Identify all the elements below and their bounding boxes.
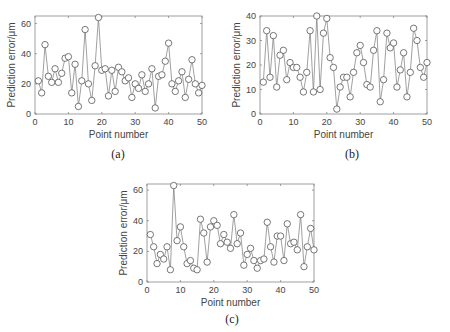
- data-point-marker: [241, 262, 247, 268]
- series-line: [150, 186, 314, 270]
- data-point-marker: [201, 230, 207, 236]
- data-point-marker: [370, 47, 376, 53]
- data-point-marker: [59, 70, 65, 76]
- x-tick-label: 20: [97, 117, 107, 127]
- x-tick-label: 20: [209, 285, 219, 295]
- data-point-marker: [192, 81, 198, 87]
- data-point-marker: [152, 105, 158, 111]
- y-tick-label: 60: [133, 185, 143, 195]
- data-point-marker: [264, 219, 270, 225]
- y-tick-label: 40: [21, 49, 31, 59]
- data-point-marker: [417, 64, 423, 70]
- data-point-marker: [189, 57, 195, 63]
- y-tick-label: 40: [133, 216, 143, 226]
- data-point-marker: [227, 245, 233, 251]
- data-point-marker: [55, 79, 61, 85]
- data-point-marker: [377, 99, 383, 105]
- y-tick-label: 60: [21, 19, 31, 29]
- chart-b: 01020304050010203040Point numberPredicti…: [225, 0, 450, 140]
- data-point-marker: [301, 263, 307, 269]
- data-point-marker: [354, 50, 360, 56]
- data-point-marker: [317, 86, 323, 92]
- x-tick-label: 0: [144, 285, 149, 295]
- data-point-marker: [397, 67, 403, 73]
- x-tick-label: 50: [309, 285, 319, 295]
- y-tick-label: 0: [251, 109, 256, 119]
- x-axis-label: Point number: [201, 297, 261, 308]
- x-tick-label: 30: [242, 285, 252, 295]
- data-point-marker: [330, 64, 336, 70]
- y-tick-label: 20: [133, 246, 143, 256]
- y-tick-label: 0: [138, 277, 143, 287]
- data-point-marker: [177, 224, 183, 230]
- data-point-marker: [214, 222, 220, 228]
- data-point-marker: [261, 256, 267, 262]
- data-point-marker: [195, 90, 201, 96]
- data-point-marker: [199, 82, 205, 88]
- data-point-marker: [367, 84, 373, 90]
- y-axis-label: Prediction error/μm: [6, 22, 17, 107]
- data-point-marker: [92, 63, 98, 69]
- data-point-marker: [135, 85, 141, 91]
- data-point-marker: [277, 233, 283, 239]
- data-point-marker: [171, 182, 177, 188]
- data-point-marker: [109, 67, 115, 73]
- data-point-marker: [149, 66, 155, 72]
- data-point-marker: [314, 13, 320, 19]
- data-point-marker: [284, 77, 290, 83]
- data-point-marker: [105, 93, 111, 99]
- data-point-marker: [159, 72, 165, 78]
- data-point-marker: [311, 247, 317, 253]
- data-point-marker: [380, 77, 386, 83]
- y-tick-label: 10: [246, 85, 256, 95]
- data-point-marker: [89, 97, 95, 103]
- caption-c: (c): [212, 312, 252, 327]
- data-point-marker: [52, 66, 58, 72]
- data-point-marker: [147, 231, 153, 237]
- data-point-marker: [297, 211, 303, 217]
- data-point-marker: [324, 15, 330, 21]
- data-point-marker: [182, 94, 188, 100]
- data-point-marker: [194, 267, 200, 273]
- data-point-marker: [49, 79, 55, 85]
- x-axis-label: Point number: [89, 129, 149, 140]
- data-point-marker: [237, 230, 243, 236]
- y-tick-label: 40: [246, 11, 256, 21]
- chart-b-plot: 01020304050010203040Point numberPredicti…: [225, 0, 450, 140]
- data-point-marker: [254, 265, 260, 271]
- data-point-marker: [142, 88, 148, 94]
- data-point-marker: [404, 94, 410, 100]
- data-point-marker: [400, 50, 406, 56]
- data-point-marker: [185, 76, 191, 82]
- data-point-marker: [320, 30, 326, 36]
- data-point-marker: [181, 244, 187, 250]
- data-point-marker: [164, 244, 170, 250]
- chart-c: 010203040500204060Point numberPrediction…: [112, 168, 337, 308]
- data-point-marker: [179, 69, 185, 75]
- x-tick-label: 30: [355, 117, 365, 127]
- x-tick-label: 50: [422, 117, 432, 127]
- data-point-marker: [344, 74, 350, 80]
- y-axis-label: Prediction error/μm: [231, 22, 242, 107]
- x-tick-label: 40: [164, 117, 174, 127]
- data-point-marker: [139, 72, 145, 78]
- x-axis-label: Point number: [314, 129, 374, 140]
- data-point-marker: [79, 78, 85, 84]
- data-point-marker: [187, 257, 193, 263]
- data-point-marker: [154, 260, 160, 266]
- data-point-marker: [162, 58, 168, 64]
- caption-a: (a): [98, 147, 138, 162]
- data-point-marker: [271, 259, 277, 265]
- data-point-marker: [102, 66, 108, 72]
- data-point-marker: [231, 211, 237, 217]
- data-point-marker: [297, 74, 303, 80]
- data-point-marker: [45, 73, 51, 79]
- data-point-marker: [390, 40, 396, 46]
- data-point-marker: [95, 14, 101, 20]
- x-tick-label: 50: [197, 117, 207, 127]
- x-tick-label: 20: [322, 117, 332, 127]
- data-point-marker: [263, 28, 269, 34]
- data-point-marker: [307, 28, 313, 34]
- y-tick-label: 20: [246, 60, 256, 70]
- data-point-marker: [167, 267, 173, 273]
